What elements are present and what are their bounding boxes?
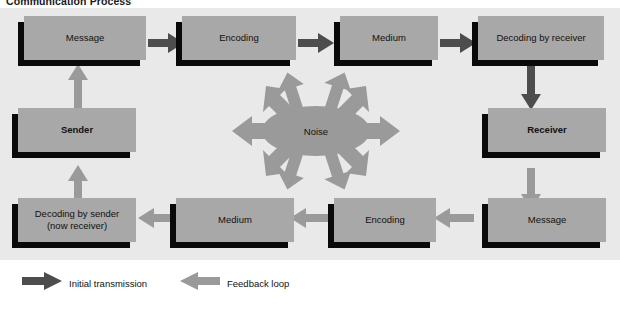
- box-shadow-bottom: [328, 242, 430, 248]
- box-shadow-bottom: [482, 152, 600, 158]
- arrow-encoding-to-medium-top: [298, 33, 334, 53]
- box-shadow-bottom: [12, 152, 130, 158]
- box-label: Decoding by sender (now receiver): [32, 208, 123, 232]
- box-label: Message: [63, 32, 108, 44]
- noise-label: Noise: [304, 126, 328, 137]
- box-label-line2: (now receiver): [35, 220, 120, 232]
- box-shadow-bottom: [12, 242, 130, 248]
- feedback-loop-arrow-icon: [180, 272, 220, 294]
- box-encoding-top[interactable]: Encoding: [182, 16, 296, 60]
- box-decoding-by-sender[interactable]: Decoding by sender (now receiver): [18, 198, 136, 242]
- arrow-sender-to-message-top: [68, 64, 88, 108]
- box-shadow-bottom: [334, 60, 432, 66]
- box-shadow-bottom: [482, 242, 600, 248]
- initial-transmission-arrow-icon: [22, 272, 62, 294]
- box-label: Encoding: [362, 214, 408, 226]
- diagram-root: Communication Process: [0, 0, 620, 319]
- box-medium-bottom[interactable]: Medium: [176, 198, 294, 242]
- box-label: Medium: [369, 32, 409, 44]
- box-shadow-bottom: [472, 60, 598, 66]
- arrow-encoding-to-medium-bottom: [290, 208, 330, 228]
- box-shadow-bottom: [170, 242, 288, 248]
- box-label: Sender: [58, 124, 96, 136]
- legend-label: Initial transmission: [69, 278, 147, 289]
- box-medium-top[interactable]: Medium: [340, 16, 438, 60]
- box-receiver[interactable]: Receiver: [488, 108, 606, 152]
- box-label: Decoding by receiver: [493, 32, 588, 44]
- legend-item-initial-transmission: Initial transmission: [22, 272, 147, 294]
- arrow-message-to-encoding-bottom: [434, 208, 474, 228]
- box-decoding-by-receiver[interactable]: Decoding by receiver: [478, 16, 604, 60]
- box-message-bottom[interactable]: Message: [488, 198, 606, 242]
- box-label: Message: [525, 214, 570, 226]
- box-sender[interactable]: Sender: [18, 108, 136, 152]
- page-title: Communication Process: [6, 0, 131, 7]
- box-shadow-bottom: [176, 60, 290, 66]
- box-message-top[interactable]: Message: [24, 16, 146, 60]
- legend-label: Feedback loop: [227, 278, 289, 289]
- box-label: Receiver: [524, 124, 570, 136]
- box-label-line1: Decoding by sender: [35, 208, 120, 220]
- box-label: Medium: [215, 214, 255, 226]
- arrow-decoding-to-receiver: [521, 66, 541, 110]
- box-label: Encoding: [216, 32, 262, 44]
- box-shadow-bottom: [18, 60, 140, 66]
- noise-ellipse[interactable]: Noise: [262, 106, 370, 156]
- legend-item-feedback-loop: Feedback loop: [180, 272, 289, 294]
- arrow-medium-to-decoding-top: [440, 33, 476, 53]
- box-encoding-bottom[interactable]: Encoding: [334, 198, 436, 242]
